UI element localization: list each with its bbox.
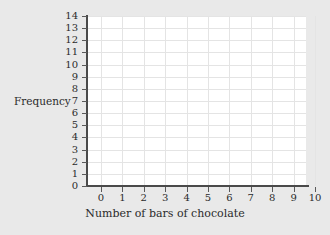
- grid-line-horizontal: [87, 65, 306, 66]
- grid-line-horizontal: [87, 16, 306, 17]
- y-tick-mark: [82, 77, 87, 78]
- y-tick-label: 11: [48, 47, 78, 57]
- y-tick-label: 0: [48, 181, 78, 191]
- y-tick-label: 5: [48, 120, 78, 130]
- y-tick-mark: [82, 28, 87, 29]
- y-tick-mark: [82, 137, 87, 138]
- y-tick-label: 4: [48, 132, 78, 142]
- y-tick-label: 12: [48, 35, 78, 45]
- grid-line-horizontal: [87, 125, 306, 126]
- grid-line-horizontal: [87, 101, 306, 102]
- grid-line-horizontal: [87, 113, 306, 114]
- x-tick-label: 5: [196, 192, 220, 203]
- y-tick-mark: [82, 162, 87, 163]
- grid-line-horizontal: [87, 52, 306, 53]
- x-tick-label: 9: [282, 192, 306, 203]
- x-tick-label: 0: [89, 192, 113, 203]
- y-tick-mark: [82, 16, 87, 17]
- grid-line-horizontal: [87, 40, 306, 41]
- x-tick-label: 7: [239, 192, 263, 203]
- x-tick-label: 10: [303, 192, 327, 203]
- grid-line-horizontal: [87, 174, 306, 175]
- grid-line-horizontal: [87, 162, 306, 163]
- plot-area: [87, 16, 306, 186]
- y-tick-label: 9: [48, 72, 78, 82]
- y-axis-title: Frequency: [14, 96, 71, 107]
- x-tick-label: 2: [132, 192, 156, 203]
- y-tick-label: 14: [48, 11, 78, 21]
- frequency-chart-figure: 01234567891011121314 012345678910 Freque…: [0, 0, 330, 235]
- y-tick-label: 6: [48, 108, 78, 118]
- y-tick-mark: [82, 40, 87, 41]
- y-tick-mark: [82, 89, 87, 90]
- y-tick-label: 13: [48, 23, 78, 33]
- y-tick-mark: [82, 65, 87, 66]
- y-tick-mark: [82, 101, 87, 102]
- y-tick-mark: [82, 113, 87, 114]
- x-tick-label: 6: [217, 192, 241, 203]
- grid-line-horizontal: [87, 28, 306, 29]
- y-tick-mark: [82, 52, 87, 53]
- y-tick-mark: [82, 174, 87, 175]
- y-tick-label: 10: [48, 60, 78, 70]
- y-tick-label: 8: [48, 84, 78, 94]
- x-tick-label: 4: [175, 192, 199, 203]
- y-tick-label: 3: [48, 145, 78, 155]
- grid-line-horizontal: [87, 77, 306, 78]
- x-axis-line: [86, 185, 309, 187]
- x-tick-label: 1: [110, 192, 134, 203]
- y-tick-mark: [82, 150, 87, 151]
- grid-line-horizontal: [87, 89, 306, 90]
- y-tick-mark: [82, 125, 87, 126]
- y-tick-label: 2: [48, 157, 78, 167]
- x-tick-label: 3: [153, 192, 177, 203]
- y-tick-mark: [82, 186, 87, 187]
- x-axis-title: Number of bars of chocolate: [0, 208, 330, 220]
- y-tick-label: 1: [48, 169, 78, 179]
- grid-line-horizontal: [87, 150, 306, 151]
- x-tick-label: 8: [260, 192, 284, 203]
- grid-line-vertical: [315, 16, 316, 186]
- grid-line-horizontal: [87, 137, 306, 138]
